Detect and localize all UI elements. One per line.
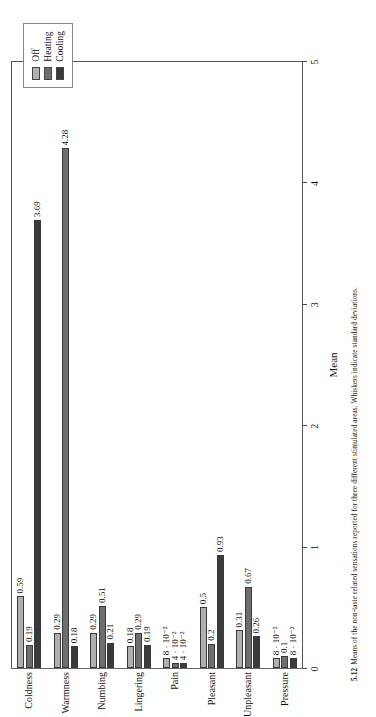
bar-value-label: 3.69 [33,201,42,217]
legend-item-cooling: Cooling [55,31,65,80]
value-axis-tick-label: 3 [309,302,320,307]
bar-group: Pain8 · 10⁻²4 · 10⁻²4 · 10⁻² [163,61,187,668]
bar-cooling-pressure [290,658,297,668]
value-axis-tick [303,182,307,183]
bar-off-lingering [127,646,134,668]
bar-row: 0.21 [107,623,114,667]
bar-row: 4.28 [62,129,69,667]
bar-value-label: 0.19 [25,626,34,642]
legend-swatch-icon [32,66,40,79]
category-label-pain: Pain [170,672,180,690]
bar-cooling-warmness [71,646,78,668]
bar-row: 0.93 [217,536,224,668]
value-axis-tick [303,425,307,426]
bar-value-label: 0.19 [143,626,152,642]
bar-value-label: 0.18 [70,627,79,643]
bar-cooling-pain [180,663,187,668]
bar-cooling-numbing [107,642,114,667]
bar-value-label: 0.59 [16,577,25,593]
bar-value-label: 8 · 10⁻² [289,626,298,655]
value-axis-tick-label: 0 [309,666,320,671]
category-label-pressure: Pressure [280,672,290,706]
legend-swatch-icon [44,66,52,79]
bar-value-label: 0.5 [199,593,208,604]
bar-group: Unpleasant0.310.670.26 [236,61,260,668]
value-axis-tick-label: 5 [309,59,320,64]
bar-value-label: 4.28 [61,129,70,145]
legend-item-off: Off [31,31,41,80]
bar-row: 4 · 10⁻² [180,631,187,668]
category-label-unpleasant: Unpleasant [243,672,253,717]
bar-cooling-pleasant [217,555,224,668]
bar-group: Coldness0.590.193.69 [17,61,41,668]
category-label-coldness: Coldness [24,672,34,709]
bar-group: Lingering0.180.290.19 [127,61,151,668]
legend-item-label: Cooling [55,31,65,62]
value-axis-tick-label: 1 [309,545,320,550]
bar-value-label: 0.93 [216,536,225,552]
bar-value-label: 0.29 [53,614,62,630]
value-axis-tick-label: 2 [309,423,320,428]
bar-value-label: 4 · 10⁻² [179,631,188,660]
legend-item-heating: Heating [43,31,53,80]
bar-heating-coldness [26,644,33,667]
bar-heating-pleasant [208,643,215,667]
bar-off-warmness [54,632,61,667]
bar-value-label: 0.31 [235,611,244,627]
figure-caption-number: 5.12 [350,668,359,681]
bar-row: 0.29 [90,614,97,668]
value-axis-tick [303,303,307,304]
bar-group: Pleasant0.50.20.93 [200,61,224,668]
bar-row: 3.69 [34,201,41,668]
bar-row: 0.19 [144,626,151,668]
figure-caption-text: Means of the non-taste related sensation… [350,287,359,665]
bar-value-label: 0.51 [98,587,107,603]
bar-row: 0.18 [71,627,78,668]
bar-value-label: 0.2 [207,629,216,640]
value-axis-tick [303,668,307,669]
bar-row: 0.19 [26,626,33,668]
legend-swatch-icon [56,66,64,79]
value-axis-tick-label: 4 [309,180,320,185]
bars-layer: Coldness0.590.193.69Warmness0.294.280.18… [11,61,303,668]
bar-row: 0.59 [17,577,24,667]
bar-heating-pain [172,663,179,668]
figure-caption: 5.12Means of the non-taste related sensa… [350,0,376,687]
bar-row: 0.31 [236,611,243,667]
bar-off-pressure [273,658,280,668]
bar-row: 0.18 [127,627,134,668]
bar-group: Warmness0.294.280.18 [54,61,78,668]
category-label-numbing: Numbing [97,672,107,710]
value-axis: Mean 012345 [303,61,349,669]
legend-item-label: Heating [43,31,53,61]
category-label-warmness: Warmness [61,672,71,713]
bar-cooling-lingering [144,644,151,667]
bar-heating-warmness [62,148,69,668]
bar-cooling-coldness [34,220,41,668]
value-axis-title: Mean [327,61,339,669]
bar-off-numbing [90,632,97,667]
bar-value-label: 0.67 [244,567,253,583]
bar-row: 0.26 [253,617,260,667]
bar-chart: Coldness0.590.193.69Warmness0.294.280.18… [11,9,303,669]
bar-row: 0.29 [54,614,61,668]
bar-group: Numbing0.290.510.21 [90,61,114,668]
value-axis-tick [303,546,307,547]
bar-cooling-unpleasant [253,636,260,668]
value-axis-tick [303,61,307,62]
category-label-pleasant: Pleasant [207,672,217,705]
bar-value-label: 0.21 [106,623,115,639]
bar-off-unpleasant [236,630,243,668]
bar-group: Pressure8 · 10⁻²0.18 · 10⁻² [273,61,297,668]
category-label-lingering: Lingering [134,672,144,711]
bar-value-label: 0.26 [252,617,261,633]
chart-legend: OffHeatingCooling [23,23,73,88]
bar-heating-pressure [281,655,288,667]
bar-row: 0.2 [208,629,215,668]
bar-value-label: 0.29 [89,614,98,630]
bar-row: 8 · 10⁻² [290,626,297,667]
legend-item-label: Off [31,48,41,61]
